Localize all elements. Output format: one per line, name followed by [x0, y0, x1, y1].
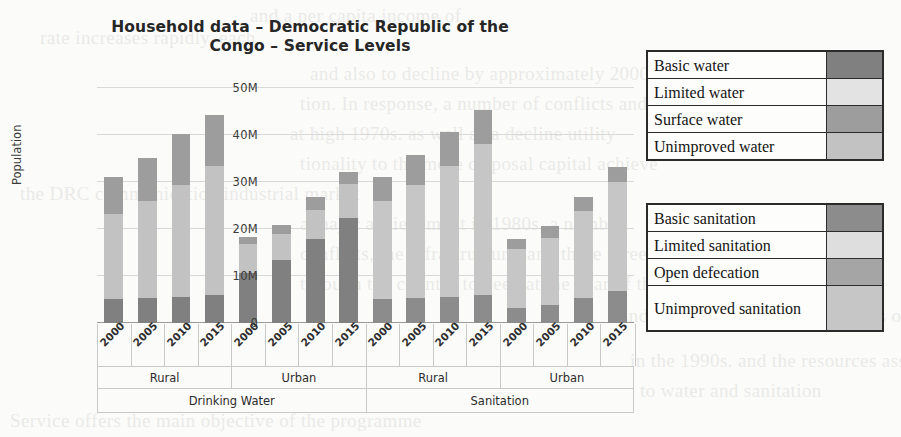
legend-item-limited-water[interactable]: Limited water [648, 79, 882, 106]
bar-drinking-water-urban-2015[interactable] [339, 172, 358, 324]
x-tick-year: 2010 [433, 324, 468, 366]
x-axis-section-row: Drinking WaterSanitation [97, 389, 634, 413]
x-tick-year: 2015 [600, 324, 636, 366]
x-tick-year: 2000 [500, 324, 535, 366]
chart-title-line-2: Congo – Service Levels [210, 37, 411, 55]
x-tick-label: 2010 [433, 319, 462, 348]
x-tick-label: 2010 [164, 319, 193, 348]
x-axis: 2000200520102015200020052010201520002005… [97, 324, 634, 413]
legend-item-unimproved-sanitation[interactable]: Unimproved sanitation [648, 286, 882, 330]
bar-segment-surface-water [172, 185, 191, 296]
bar-sanitation-urban-2010[interactable] [574, 197, 593, 323]
bar-segment-unimproved-sanitation [406, 155, 425, 184]
x-tick-label: 2000 [232, 319, 261, 348]
legend-swatch-unimproved-sanitation [826, 286, 882, 330]
bar-drinking-water-urban-2005[interactable] [272, 225, 291, 323]
x-tick-year: 2015 [332, 324, 367, 366]
legend-sanitation: Basic sanitation Limited sanitation Open… [646, 203, 884, 332]
bar-segment-unimproved-water [339, 172, 358, 184]
bar-segment-open-defecation [474, 144, 493, 296]
x-tick-year: 2005 [131, 324, 166, 366]
bar-drinking-water-rural-2010[interactable] [172, 134, 191, 323]
x-axis-year-row: 2000200520102015200020052010201520002005… [97, 324, 634, 366]
legend-swatch-limited-sanitation [826, 232, 882, 258]
legend-item-basic-water[interactable]: Basic water [648, 52, 882, 79]
bar-segment-open-defecation [574, 211, 593, 298]
bar-segment-open-defecation [608, 182, 627, 291]
bar-segment-unimproved-water [306, 197, 325, 209]
bar-drinking-water-rural-2005[interactable] [138, 158, 157, 323]
bar-segment-unimproved-sanitation [507, 239, 526, 250]
legend-label: Unimproved water [648, 133, 826, 159]
bar-sanitation-rural-2005[interactable] [406, 155, 425, 323]
legend-water: Basic water Limited water Surface water … [646, 50, 884, 161]
bar-sanitation-rural-2015[interactable] [474, 110, 493, 323]
x-tick-label: 2015 [466, 319, 495, 348]
bar-segment-basic-water [172, 297, 191, 323]
bar-segment-unimproved-sanitation [541, 226, 560, 237]
bar-segment-basic-water [272, 260, 291, 323]
x-tick-year: 2010 [567, 324, 602, 366]
x-tick-label: 2010 [299, 319, 328, 348]
legend-swatch-unimproved-water [826, 133, 882, 159]
y-tick-label: 30M [198, 175, 258, 189]
bar-segment-unimproved-water [172, 134, 191, 185]
bar-segment-basic-water [104, 299, 123, 323]
bar-segment-surface-water [104, 214, 123, 299]
bar-drinking-water-rural-2015[interactable] [205, 115, 224, 323]
y-tick-label: 40M [198, 128, 258, 142]
bar-segment-unimproved-water [104, 177, 123, 215]
bar-sanitation-rural-2010[interactable] [440, 132, 459, 323]
x-tick-label: 2005 [131, 319, 160, 348]
legend-item-open-defecation[interactable]: Open defecation [648, 259, 882, 286]
legend-item-basic-sanitation[interactable]: Basic sanitation [648, 205, 882, 232]
bar-segment-unimproved-water [272, 225, 291, 234]
legend-label: Surface water [648, 106, 826, 132]
x-axis-band-urban: Urban [231, 366, 365, 389]
x-tick-year: 2015 [466, 324, 501, 366]
x-tick-label: 2010 [567, 319, 596, 348]
x-axis-band-row: RuralUrbanRuralUrban [97, 366, 634, 389]
legend-label: Limited sanitation [648, 232, 826, 258]
x-tick-year: 2005 [399, 324, 434, 366]
x-tick-year: 2000 [231, 324, 266, 366]
bar-drinking-water-rural-2000[interactable] [104, 177, 123, 323]
legend-item-limited-sanitation[interactable]: Limited sanitation [648, 232, 882, 259]
x-tick-label: 2000 [366, 319, 395, 348]
bar-sanitation-urban-2005[interactable] [541, 226, 560, 323]
x-tick-label: 2000 [97, 319, 126, 348]
legend-swatch-basic-sanitation [826, 205, 882, 231]
legend-label: Limited water [648, 79, 826, 105]
bar-segment-open-defecation [406, 185, 425, 298]
x-tick-year: 2005 [533, 324, 568, 366]
legend-item-surface-water[interactable]: Surface water [648, 106, 882, 133]
legend-item-unimproved-water[interactable]: Unimproved water [648, 133, 882, 159]
bar-sanitation-urban-2000[interactable] [507, 239, 526, 323]
legend-label: Open defecation [648, 259, 826, 285]
legend-swatch-basic-water [826, 52, 882, 78]
legend-label: Basic water [648, 52, 826, 78]
bar-segment-basic-sanitation [373, 299, 392, 323]
x-tick-label: 2005 [399, 319, 428, 348]
bar-segment-basic-sanitation [406, 298, 425, 323]
bar-drinking-water-urban-2010[interactable] [306, 197, 325, 323]
x-axis-band-rural: Rural [366, 366, 500, 389]
bar-sanitation-urban-2015[interactable] [608, 167, 627, 323]
bar-segment-basic-sanitation [541, 305, 560, 323]
bar-sanitation-rural-2000[interactable] [373, 177, 392, 323]
bar-segment-basic-sanitation [608, 291, 627, 323]
bar-segment-basic-sanitation [440, 297, 459, 323]
x-axis-band-urban: Urban [500, 366, 634, 389]
chart-title-line-1: Household data – Democratic Republic of … [111, 18, 509, 36]
legend-swatch-surface-water [826, 106, 882, 132]
x-tick-label: 2015 [332, 319, 361, 348]
bar-segment-open-defecation [373, 201, 392, 299]
x-tick-year: 2015 [198, 324, 233, 366]
bar-segment-basic-sanitation [474, 295, 493, 323]
bar-segment-unimproved-water [138, 158, 157, 201]
x-tick-year: 2010 [164, 324, 199, 366]
x-tick-label: 2005 [534, 319, 563, 348]
x-tick-label: 2015 [601, 319, 630, 348]
bar-segment-basic-water [138, 298, 157, 323]
x-tick-year: 2010 [298, 324, 333, 366]
